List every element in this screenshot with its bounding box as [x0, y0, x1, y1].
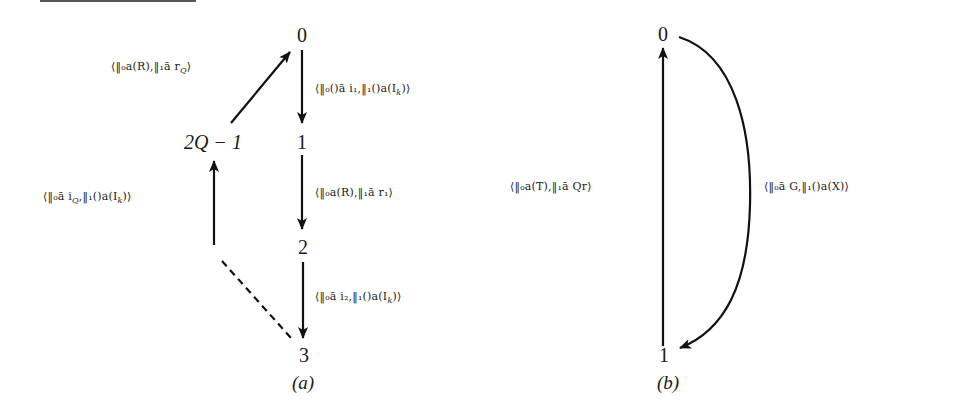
- node-b-0: 0: [658, 24, 668, 44]
- label-edge-b-0-to-1: ⟨‖₀ā G,‖₁()a(X)⟩: [764, 180, 849, 194]
- label-edge-2q1-to-0: ⟨‖₀a(R),‖₁ā rQ⟩: [111, 60, 191, 78]
- node-a-1: 1: [297, 132, 307, 152]
- edge-b-0-to-1-curve: [679, 37, 750, 348]
- label-edge-0-to-1: ⟨‖₀()ā i₁,‖₁()a(Ik)⟩: [315, 82, 410, 100]
- node-a-0: 0: [297, 25, 307, 45]
- label-edge-2-to-3: ⟨‖₀ā i₂,‖₁()a(Ik)⟩: [315, 290, 401, 308]
- edge-2q1-to-0: [231, 52, 290, 123]
- caption-b: (b): [657, 372, 679, 394]
- node-a-2q-minus-1: 2Q − 1: [184, 132, 242, 152]
- node-a-2: 2: [298, 237, 308, 257]
- label-edge-b-1-to-0: ⟨‖₀a(T),‖₁ā Qr⟩: [510, 180, 592, 194]
- node-b-1: 1: [659, 345, 669, 365]
- label-edge-1-to-2: ⟨‖₀a(R),‖₁ā r₁⟩: [315, 186, 393, 200]
- node-a-3: 3: [299, 345, 309, 365]
- caption-a: (a): [292, 372, 314, 394]
- label-edge-up-to-2q1: ⟨‖₀ā iQ,‖₁()a(Ik)⟩: [43, 190, 132, 208]
- edge-dashed-3: [222, 261, 291, 338]
